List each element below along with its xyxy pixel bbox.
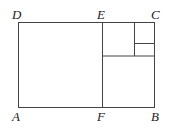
label-A: A <box>11 109 20 124</box>
label-E: E <box>96 7 105 22</box>
label-C: C <box>151 7 160 22</box>
rectangle-diagram: D E C A F B <box>0 0 172 129</box>
label-D: D <box>11 7 22 22</box>
label-F: F <box>96 109 106 124</box>
label-B: B <box>151 109 159 124</box>
